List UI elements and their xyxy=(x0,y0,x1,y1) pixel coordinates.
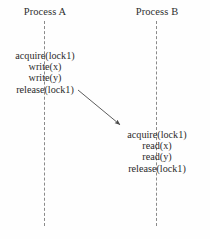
operation-line: write(x) xyxy=(0,61,91,72)
operations-process-a: acquire(lock1) write(x) write(y) release… xyxy=(0,50,91,95)
operation-line: read(y) xyxy=(111,151,203,162)
operation-line: release(lock1) xyxy=(111,163,203,174)
arrow-shaft xyxy=(78,90,120,125)
operation-line: read(x) xyxy=(111,140,203,151)
operations-process-b: acquire(lock1) read(x) read(y) release(l… xyxy=(111,129,203,174)
operation-line: release(lock1) xyxy=(0,84,91,95)
lifeline-process-b xyxy=(156,21,157,226)
operation-line: write(y) xyxy=(0,72,91,83)
diagram-canvas: Process A Process B acquire(lock1) write… xyxy=(0,0,210,239)
operation-line: acquire(lock1) xyxy=(0,50,91,61)
lifeline-header-process-b: Process B xyxy=(112,6,202,17)
operation-line: acquire(lock1) xyxy=(111,129,203,140)
lifeline-header-process-a: Process A xyxy=(0,6,90,17)
lock-handoff-arrow xyxy=(0,0,210,239)
